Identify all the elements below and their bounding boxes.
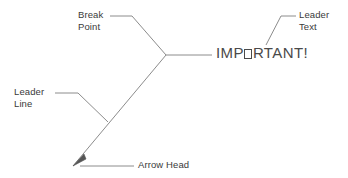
leader-line-pointer <box>55 93 108 122</box>
label-break-point-line1: Break <box>78 9 103 20</box>
label-break-point-line2: Point <box>78 21 100 32</box>
label-arrow-head-line1: Arrow Head <box>138 159 189 170</box>
label-arrow-head: Arrow Head <box>138 159 189 171</box>
arrow-head-glyph <box>73 154 86 166</box>
label-leader-line-line1: Leader <box>14 86 44 97</box>
label-leader-text-line1: Leader <box>299 9 329 20</box>
leader-main-text-before: IMP <box>216 44 244 61</box>
label-leader-line-line2: Line <box>14 98 32 109</box>
leader-line-path <box>73 55 212 166</box>
leader-diagram: BreakPoint LeaderText LeaderLine Arrow H… <box>0 0 348 178</box>
leader-main-text: IMPRTANT! <box>216 44 308 61</box>
label-leader-line: LeaderLine <box>14 86 44 109</box>
break-point-pointer <box>110 16 166 55</box>
diagram-line-art <box>0 0 348 178</box>
label-leader-text: LeaderText <box>299 9 329 32</box>
missing-glyph-box-icon <box>244 49 252 59</box>
label-leader-text-line2: Text <box>299 21 317 32</box>
leader-text-pointer <box>266 16 296 45</box>
label-break-point: BreakPoint <box>78 9 103 32</box>
leader-main-text-after: RTANT! <box>253 44 308 61</box>
